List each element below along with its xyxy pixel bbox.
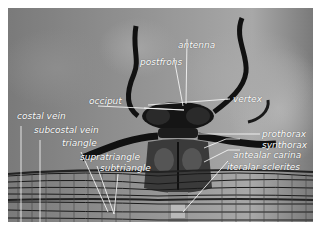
label-prothorax: prothorax: [262, 129, 306, 139]
label-triangle: triangle: [62, 138, 97, 148]
label-subcostal-vein: subcostal vein: [34, 125, 99, 135]
label-antealar-carina: antealar carina: [233, 150, 301, 160]
label-vertex: vertex: [233, 94, 262, 104]
label-alar-sclerites: iteralar sclerites: [227, 162, 300, 172]
label-synthorax: synthorax: [262, 140, 307, 150]
label-antenna: antenna: [178, 40, 215, 50]
label-costal-vein: costal vein: [17, 111, 66, 121]
label-subtriangle: subtriangle: [100, 163, 151, 173]
label-supratriangle: supratriangle: [80, 152, 140, 162]
label-postfrons: postfrons: [140, 57, 182, 67]
label-occiput: occiput: [89, 96, 122, 106]
